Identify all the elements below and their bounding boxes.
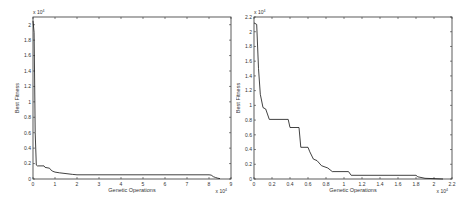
y-tick-label: 0.2 — [24, 160, 31, 166]
left-line-chart: 012345678900.20.40.60.811.21.41.61.82x 1… — [0, 0, 236, 204]
x-tick-label: 2 — [76, 181, 79, 187]
y-tick-label: 0.6 — [245, 132, 252, 138]
x-multiplier: x 104 — [437, 188, 448, 194]
right-line-chart: 00.20.40.60.811.21.41.61.822.200.20.40.6… — [236, 0, 472, 204]
y-axis-label: Best Fitness — [236, 83, 241, 114]
x-tick-label: 0 — [32, 181, 35, 187]
y-tick-label: 0.4 — [24, 145, 31, 151]
y-axis-label: Best Fitness — [14, 83, 20, 114]
y-tick-label: 0.8 — [24, 114, 31, 120]
x-tick-label: 0.4 — [287, 181, 294, 187]
y-tick-label: 2.2 — [245, 14, 252, 20]
y-tick-label: 1.4 — [24, 68, 31, 74]
y-tick-label: 1.8 — [245, 43, 252, 49]
x-tick-label: 2.2 — [449, 181, 456, 187]
x-axis-label: Genetic Operations — [329, 187, 377, 193]
x-tick-label: 0 — [253, 181, 256, 187]
chart-left: 012345678900.20.40.60.811.21.41.61.82x 1… — [0, 0, 236, 204]
y-tick-label: 1.2 — [245, 87, 252, 93]
plot-frame — [33, 17, 231, 179]
y-tick-label: 2 — [249, 29, 252, 35]
y-tick-label: 1.6 — [245, 58, 252, 64]
x-tick-label: 0.6 — [305, 181, 312, 187]
y-multiplier: x 104 — [33, 9, 44, 15]
x-tick-label: 1.4 — [377, 181, 384, 187]
plot-frame — [254, 17, 452, 179]
x-tick-label: 8 — [208, 181, 211, 187]
x-tick-label: 1 — [54, 181, 57, 187]
y-tick-label: 0 — [249, 176, 252, 182]
x-multiplier: x 104 — [216, 188, 227, 194]
x-tick-label: 9 — [230, 181, 233, 187]
y-tick-label: 1.8 — [24, 37, 31, 43]
x-axis-label: Genetic Operations — [108, 187, 156, 193]
y-tick-label: 1.6 — [24, 52, 31, 58]
x-tick-label: 2 — [433, 181, 436, 187]
x-tick-label: 1.6 — [395, 181, 402, 187]
y-tick-label: 0.4 — [245, 146, 252, 152]
y-tick-label: 0.6 — [24, 130, 31, 136]
x-tick-label: 0.2 — [269, 181, 276, 187]
x-tick-label: 1.8 — [413, 181, 420, 187]
y-tick-label: 1.4 — [245, 73, 252, 79]
y-multiplier: x 104 — [254, 9, 265, 15]
y-tick-label: 0 — [28, 176, 31, 182]
y-tick-label: 0.2 — [245, 161, 252, 167]
y-tick-label: 1.2 — [24, 83, 31, 89]
y-tick-label: 1 — [28, 99, 31, 105]
y-tick-label: 2 — [28, 22, 31, 28]
x-tick-label: 6 — [164, 181, 167, 187]
chart-right: 00.20.40.60.811.21.41.61.822.200.20.40.6… — [236, 0, 472, 204]
x-tick-label: 7 — [186, 181, 189, 187]
y-tick-label: 0.8 — [245, 117, 252, 123]
y-tick-label: 1 — [249, 102, 252, 108]
x-tick-label: 3 — [98, 181, 101, 187]
